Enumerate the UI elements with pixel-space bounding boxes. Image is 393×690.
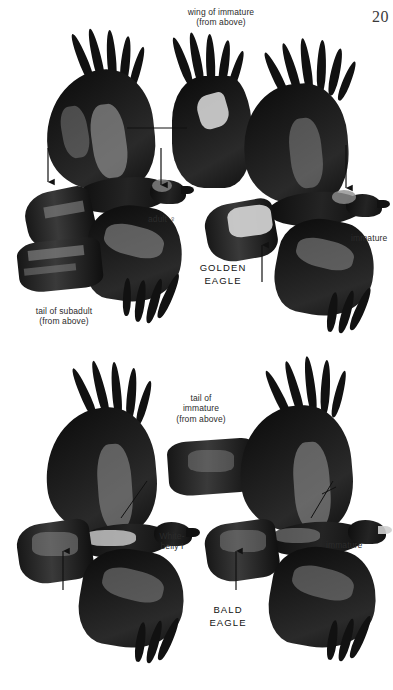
label-adult-female: adult ♀ — [148, 214, 208, 224]
golden-nape — [332, 190, 356, 204]
tail-mottling — [32, 532, 78, 556]
primary-feather — [122, 278, 131, 316]
label-tail-of-subadult: tail of subadult (from above) — [14, 306, 114, 327]
label-immature-top: immature — [351, 233, 393, 243]
label-tail-of-immature: tail of immature (from above) — [158, 393, 244, 424]
white-belly — [84, 530, 136, 546]
bill — [377, 200, 390, 208]
belly-mottling — [274, 528, 320, 543]
label-immature-bottom: immature — [326, 540, 376, 550]
label-bald-eagle: BALD EAGLE — [186, 604, 270, 630]
label-wing-of-immature: wing of immature (from above) — [162, 7, 280, 28]
primary-feather — [320, 360, 332, 416]
figure-golden-eagle-subadult-tail — [18, 240, 104, 296]
bill — [378, 526, 392, 534]
label-golden-eagle: GOLDEN EAGLE — [178, 262, 268, 288]
label-white-belly-one: White- belly I — [148, 531, 196, 552]
field-guide-plate: 20 — [0, 0, 393, 690]
primary-feather — [329, 370, 348, 419]
page-number: 20 — [372, 8, 389, 26]
tail-mottling — [220, 530, 266, 552]
